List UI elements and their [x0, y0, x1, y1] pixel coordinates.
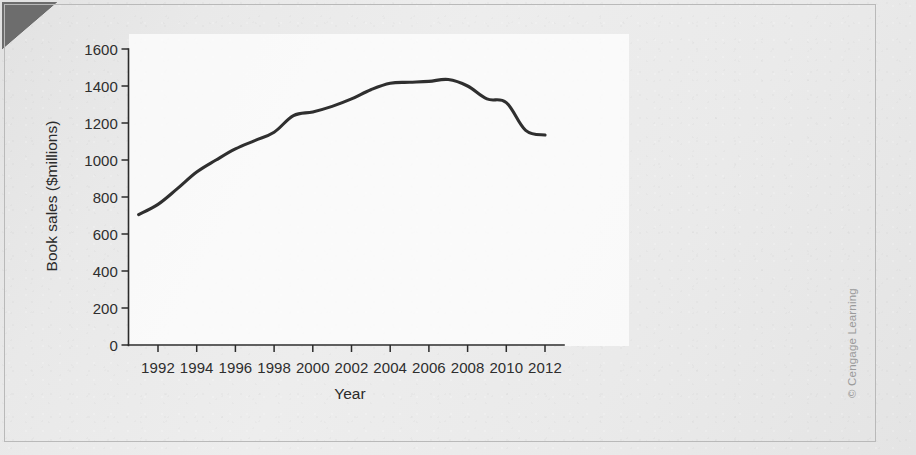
x-tick-label: 2008 — [451, 359, 485, 376]
copyright-credit: © Cengage Learning — [846, 288, 858, 398]
y-axis — [122, 49, 129, 346]
x-tick-label: 1994 — [180, 359, 214, 376]
x-tick-label: 2006 — [412, 359, 446, 376]
data-series-line — [139, 79, 545, 214]
x-tick-label: 1992 — [141, 359, 175, 376]
y-axis-title: Book sales ($millions) — [43, 121, 61, 272]
y-tick-label: 400 — [60, 263, 118, 280]
y-tick-label: 1200 — [60, 115, 118, 132]
x-axis-ticks — [158, 345, 545, 352]
y-tick-label: 600 — [60, 226, 118, 243]
x-tick-label: 2002 — [335, 359, 369, 376]
y-axis-ticks — [122, 49, 129, 345]
x-tick-label: 2010 — [489, 359, 523, 376]
x-tick-label: 1998 — [257, 359, 291, 376]
y-tick-label: 1000 — [60, 152, 118, 169]
line-chart — [0, 0, 916, 455]
x-axis-title: Year — [334, 385, 365, 403]
x-tick-label: 2012 — [528, 359, 562, 376]
y-tick-label: 0 — [60, 337, 118, 354]
y-tick-label: 1600 — [60, 41, 118, 58]
x-axis — [129, 345, 565, 352]
x-tick-label: 2004 — [373, 359, 407, 376]
y-tick-label: 1400 — [60, 78, 118, 95]
x-tick-label: 1996 — [219, 359, 253, 376]
y-tick-label: 800 — [60, 189, 118, 206]
figure-page: 02004006008001000120014001600 1992199419… — [0, 0, 916, 455]
x-tick-label: 2000 — [296, 359, 330, 376]
y-tick-label: 200 — [60, 300, 118, 317]
